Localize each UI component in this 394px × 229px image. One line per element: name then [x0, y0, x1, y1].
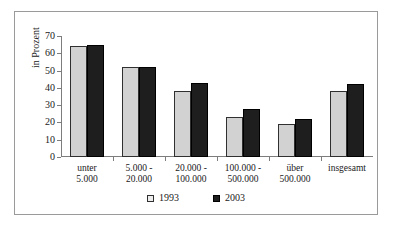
bar-2003-3: [191, 83, 208, 157]
y-axis-tick-label: 30: [45, 100, 55, 110]
bar-1993-3: [174, 91, 191, 157]
bar-1993-1: [70, 46, 87, 157]
y-axis-tick-label: 10: [45, 135, 55, 145]
bar-2003-6: [347, 84, 364, 157]
y-axis-tick-label: 0: [50, 152, 55, 162]
y-axis-tick: [57, 157, 61, 158]
bar-2003-2: [139, 67, 156, 157]
legend-label: 2003: [225, 193, 245, 203]
x-axis-tick: [321, 157, 322, 161]
bar-group: [113, 36, 165, 157]
y-axis-tick-label: 50: [45, 66, 55, 76]
legend-item-2003[interactable]: 2003: [213, 193, 245, 203]
chart-legend: 19932003: [15, 193, 377, 203]
bar-1993-5: [278, 124, 295, 157]
x-axis-tick: [217, 157, 218, 161]
legend-swatch-icon: [213, 195, 220, 202]
bar-2003-1: [87, 45, 104, 157]
bar-1993-6: [330, 91, 347, 157]
x-axis-tick: [165, 157, 166, 161]
bar-group: [321, 36, 373, 157]
bar-2003-5: [295, 119, 312, 157]
legend-swatch-icon: [147, 195, 154, 202]
y-axis-tick-label: 40: [45, 83, 55, 93]
bar-1993-2: [122, 67, 139, 157]
y-axis-tick-label: 70: [45, 31, 55, 41]
y-axis-tick-label: 20: [45, 117, 55, 127]
y-axis-title: in Prozent: [31, 27, 41, 68]
x-axis-label-line: 500.000: [263, 174, 327, 185]
plot-area: 010203040506070: [61, 36, 373, 157]
chart-frame: in Prozent 010203040506070 unter5.0005.0…: [14, 11, 378, 215]
bar-group: [269, 36, 321, 157]
x-axis-label-6: insgesamt: [315, 163, 379, 174]
x-axis-tick: [113, 157, 114, 161]
legend-item-1993[interactable]: 1993: [147, 193, 179, 203]
x-axis-tick: [269, 157, 270, 161]
bar-2003-4: [243, 109, 260, 157]
bar-group: [61, 36, 113, 157]
legend-label: 1993: [159, 193, 179, 203]
bar-group: [165, 36, 217, 157]
bar-1993-4: [226, 117, 243, 157]
y-axis-tick-label: 60: [45, 48, 55, 58]
bar-group: [217, 36, 269, 157]
x-axis-label-line: insgesamt: [315, 163, 379, 174]
